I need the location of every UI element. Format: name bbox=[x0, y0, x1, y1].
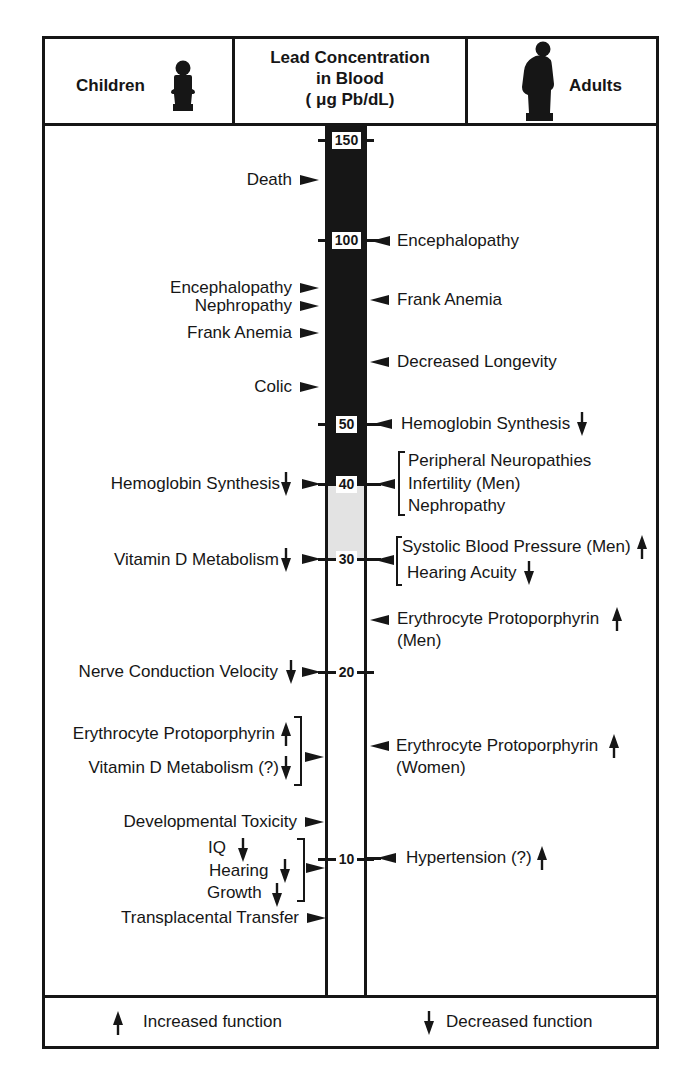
pointer-arrow-icon bbox=[376, 479, 395, 489]
children-header-label: Children bbox=[76, 75, 145, 96]
down-arrow-icon bbox=[281, 472, 291, 496]
pointer-arrow-icon bbox=[370, 357, 389, 367]
title-line-2: in Blood bbox=[235, 68, 465, 89]
adults-effect-infertility-men: Infertility (Men) bbox=[408, 474, 520, 494]
children-effect-death: Death bbox=[247, 170, 292, 190]
adults-effect-encephalopathy: Encephalopathy bbox=[397, 231, 519, 251]
pointer-arrow-icon bbox=[370, 615, 389, 625]
down-arrow-icon bbox=[424, 1011, 434, 1035]
adult-figure-icon bbox=[518, 41, 558, 121]
adults-effect-nephropathy: Nephropathy bbox=[408, 496, 505, 516]
up-arrow-icon bbox=[537, 846, 547, 870]
group-bracket bbox=[398, 451, 405, 516]
adults-effect-decreased-longevity: Decreased Longevity bbox=[397, 352, 557, 372]
children-effect-colic: Colic bbox=[254, 377, 292, 397]
pointer-arrow-icon bbox=[307, 913, 326, 923]
pointer-arrow-icon bbox=[305, 817, 324, 827]
adults-effect-sublabel-women: (Women) bbox=[396, 758, 466, 778]
pointer-arrow-icon bbox=[305, 752, 324, 762]
title-line-1: Lead Concentration bbox=[235, 47, 465, 68]
children-effect-vitamin-d-metabolism: Vitamin D Metabolism bbox=[114, 550, 279, 570]
up-arrow-icon bbox=[609, 734, 619, 758]
up-arrow-icon bbox=[637, 535, 647, 559]
legend-decreased-label: Decreased function bbox=[446, 1012, 592, 1032]
adults-header-label: Adults bbox=[569, 75, 622, 96]
children-effect-nephropathy: Nephropathy bbox=[195, 296, 292, 316]
pointer-arrow-icon bbox=[306, 863, 325, 873]
pointer-arrow-icon bbox=[370, 741, 389, 751]
adults-effect-erythrocyte-protoporphyrin-men: Erythrocyte Protoporphyrin bbox=[397, 609, 599, 629]
down-arrow-icon bbox=[524, 561, 534, 585]
pointer-arrow-icon bbox=[300, 301, 319, 311]
children-effect-hearing: Hearing bbox=[209, 861, 269, 881]
children-effect-erythrocyte-protoporphyrin: Erythrocyte Protoporphyrin bbox=[73, 724, 275, 744]
tick-label-100: 100 bbox=[332, 232, 361, 249]
pointer-arrow-icon bbox=[302, 667, 321, 677]
adults-effect-peripheral-neuropathies: Peripheral Neuropathies bbox=[408, 451, 591, 471]
adults-effect-hemoglobin-synthesis: Hemoglobin Synthesis bbox=[401, 414, 570, 434]
down-arrow-icon bbox=[281, 756, 291, 780]
child-figure-icon bbox=[170, 60, 196, 112]
legend-increased-label: Increased function bbox=[143, 1012, 282, 1032]
children-effect-frank-anemia: Frank Anemia bbox=[187, 323, 292, 343]
pointer-arrow-icon bbox=[300, 328, 319, 338]
group-bracket bbox=[294, 716, 302, 786]
down-arrow-icon bbox=[272, 883, 282, 907]
down-arrow-icon bbox=[238, 838, 248, 862]
tick-label-20: 20 bbox=[336, 664, 357, 681]
down-arrow-icon bbox=[281, 548, 291, 572]
header-col-divider-right bbox=[465, 36, 468, 125]
adults-effect-sublabel-men: (Men) bbox=[397, 631, 441, 651]
legend-divider bbox=[42, 995, 659, 998]
group-bracket bbox=[297, 838, 305, 902]
children-effect-transplacental-transfer: Transplacental Transfer bbox=[121, 908, 299, 928]
down-arrow-icon bbox=[280, 859, 290, 883]
pointer-arrow-icon bbox=[300, 283, 319, 293]
adults-effect-hearing-acuity: Hearing Acuity bbox=[407, 563, 517, 583]
pointer-arrow-icon bbox=[370, 295, 389, 305]
pointer-arrow-icon bbox=[300, 175, 319, 185]
tick-label-30: 30 bbox=[336, 551, 357, 568]
tick-label-10: 10 bbox=[336, 851, 357, 868]
up-arrow-icon bbox=[281, 722, 291, 746]
adults-effect-hypertension: Hypertension (?) bbox=[406, 848, 532, 868]
children-effect-hemoglobin-synthesis: Hemoglobin Synthesis bbox=[111, 474, 280, 494]
up-arrow-icon bbox=[113, 1011, 123, 1035]
children-effect-developmental-toxicity: Developmental Toxicity bbox=[123, 812, 297, 832]
pointer-arrow-icon bbox=[302, 479, 321, 489]
adults-effect-erythrocyte-protoporphyrin-women: Erythrocyte Protoporphyrin bbox=[396, 736, 598, 756]
pointer-arrow-icon bbox=[375, 555, 394, 565]
tick-label-40: 40 bbox=[336, 476, 357, 493]
children-effect-iq: IQ bbox=[208, 838, 226, 858]
title-line-3-unit: ( μg Pb/dL) bbox=[235, 89, 465, 110]
down-arrow-icon bbox=[577, 412, 587, 436]
children-effect-growth: Growth bbox=[207, 883, 262, 903]
scale-mid-range-fill bbox=[328, 484, 364, 559]
pointer-arrow-icon bbox=[302, 554, 321, 564]
pointer-arrow-icon bbox=[373, 419, 392, 429]
tick-label-50: 50 bbox=[336, 416, 357, 433]
adults-effect-systolic-blood-pressure-men: Systolic Blood Pressure (Men) bbox=[402, 537, 631, 557]
up-arrow-icon bbox=[612, 607, 622, 631]
pointer-arrow-icon bbox=[371, 236, 390, 246]
down-arrow-icon bbox=[286, 660, 296, 684]
children-effect-nerve-conduction-velocity: Nerve Conduction Velocity bbox=[79, 662, 278, 682]
adults-effect-frank-anemia: Frank Anemia bbox=[397, 290, 502, 310]
children-effect-vitamin-d-metabolism-uncertain: Vitamin D Metabolism (?) bbox=[88, 758, 279, 778]
tick-label-150: 150 bbox=[332, 132, 361, 149]
pointer-arrow-icon bbox=[377, 853, 396, 863]
pointer-arrow-icon bbox=[300, 382, 319, 392]
children-effect-encephalopathy: Encephalopathy bbox=[170, 278, 292, 298]
